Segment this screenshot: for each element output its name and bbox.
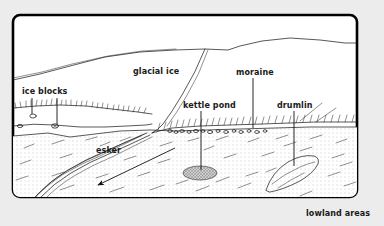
glacial-landforms-diagram: ice blocks glacial ice moraine kettle po… <box>0 0 384 226</box>
figure-root: ice blocks glacial ice moraine kettle po… <box>0 0 384 226</box>
label-drumlin: drumlin <box>277 101 313 110</box>
label-moraine: moraine <box>236 68 274 77</box>
label-kettle-pond: kettle pond <box>183 101 236 110</box>
label-esker: esker <box>96 146 121 155</box>
kettle-pond-water <box>183 166 217 180</box>
label-ice-blocks: ice blocks <box>22 87 68 96</box>
label-glacial-ice: glacial ice <box>133 67 180 76</box>
lowland-plain <box>13 127 357 197</box>
label-lowland-areas: lowland areas <box>306 209 370 218</box>
